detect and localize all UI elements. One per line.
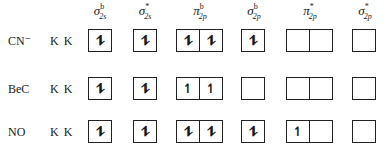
- orbital-box-sigma-2p-bonding: ⥮: [241, 120, 265, 143]
- header-sigma-2s-bonding: σb2s: [80, 4, 120, 20]
- electron-pair-icon: ⥮: [177, 30, 199, 51]
- orbital-box-sigma-2p-antibonding: [352, 120, 376, 143]
- molecule-label: BeC: [8, 82, 29, 97]
- electron-pair-icon: ⥮: [177, 121, 199, 142]
- electron-pair-icon: ⥮: [242, 121, 264, 142]
- empty-orbital: [309, 78, 332, 99]
- single-electron-icon: ↿: [199, 78, 222, 99]
- header-pi-2p-bonding: πb2p: [180, 4, 220, 20]
- core-label: K K: [50, 82, 73, 97]
- orbital-box-sigma-2s-bonding: ⥮: [88, 29, 112, 52]
- orbital-box-pi-2p-bonding: ↿↿: [176, 77, 223, 100]
- orbital-box-pi-2p-bonding: ⥮⥮: [176, 29, 223, 52]
- orbital-box-sigma-2s-antibonding: ⥮: [133, 29, 157, 52]
- header-pi-2p-antibonding: π*2p: [290, 4, 330, 20]
- electron-pair-icon: ⥮: [89, 30, 111, 51]
- electron-pair-icon: ⥮: [89, 121, 111, 142]
- orbital-box-sigma-2p-bonding: ⥮: [241, 29, 265, 52]
- orbital-box-sigma-2s-bonding: ⥮: [88, 77, 112, 100]
- electron-pair-icon: ⥮: [89, 78, 111, 99]
- empty-orbital: [287, 78, 309, 99]
- header-sigma-2p-antibonding: σ*2p: [345, 4, 385, 20]
- orbital-box-sigma-2s-bonding: ⥮: [88, 120, 112, 143]
- empty-orbital: [353, 30, 375, 51]
- header-sigma-2p-bonding: σb2p: [234, 4, 274, 20]
- electron-pair-icon: ⥮: [199, 30, 222, 51]
- electron-pair-icon: ⥮: [134, 78, 156, 99]
- empty-orbital: [287, 30, 309, 51]
- orbital-box-sigma-2p-bonding: [241, 77, 265, 100]
- header-sigma-2s-antibonding: σ*2s: [125, 4, 165, 20]
- orbital-box-sigma-2s-antibonding: ⥮: [133, 77, 157, 100]
- empty-orbital: [309, 30, 332, 51]
- empty-orbital: [353, 121, 375, 142]
- orbital-box-sigma-2p-antibonding: [352, 77, 376, 100]
- electron-pair-icon: ⥮: [199, 121, 222, 142]
- electron-pair-icon: ⥮: [134, 30, 156, 51]
- orbital-box-pi-2p-bonding: ⥮⥮: [176, 120, 223, 143]
- core-label: K K: [50, 34, 73, 49]
- molecule-label: CN⁻: [8, 34, 31, 49]
- electron-pair-icon: ⥮: [134, 121, 156, 142]
- empty-orbital: [353, 78, 375, 99]
- single-electron-icon: ↿: [287, 121, 309, 142]
- molecule-label: NO: [8, 125, 25, 140]
- orbital-box-pi-2p-antibonding: [286, 29, 333, 52]
- orbital-box-pi-2p-antibonding: [286, 77, 333, 100]
- electron-pair-icon: ⥮: [242, 30, 264, 51]
- orbital-box-pi-2p-antibonding: ↿: [286, 120, 333, 143]
- orbital-box-sigma-2s-antibonding: ⥮: [133, 120, 157, 143]
- single-electron-icon: ↿: [177, 78, 199, 99]
- empty-orbital: [309, 121, 332, 142]
- core-label: K K: [50, 125, 73, 140]
- orbital-box-sigma-2p-antibonding: [352, 29, 376, 52]
- empty-orbital: [242, 78, 264, 99]
